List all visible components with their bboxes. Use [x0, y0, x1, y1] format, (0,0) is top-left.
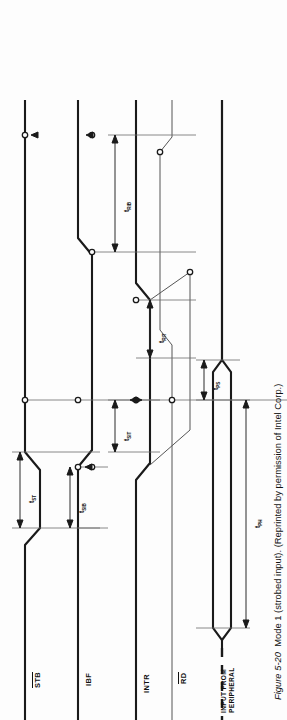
timing-sub-tSIB: SIB [82, 503, 87, 511]
timing-label-tSIT: tSIT [123, 432, 132, 441]
waveform-ibf [78, 100, 92, 720]
figure-number: Figure 5-20 [272, 652, 283, 700]
dim-tRIB [112, 135, 118, 252]
figure-caption: Figure 5-20 Mode 1 (strobed input). (Rep… [272, 384, 283, 700]
figure-title: Mode 1 (strobed input). [272, 550, 283, 647]
figure-credit: (Reprinted by permission of Intel Corp.) [272, 384, 283, 548]
timing-sub-tPH: PS [216, 382, 221, 388]
signal-label-line2: PERIPHERAL [228, 668, 236, 714]
signal-label-stb: STB [32, 672, 42, 688]
dim-tPH [201, 360, 207, 400]
timing-label-tPH: tPS [212, 382, 221, 390]
timing-sub-tPS: PH [258, 519, 263, 525]
signal-label-input-from-peripheral: INPUT FROM PERIPHERAL [220, 668, 236, 714]
timing-diagram [0, 0, 287, 720]
signal-label-rd: RD [178, 672, 188, 684]
dim-tPS [243, 400, 249, 628]
waveform-input-from-peripheral [213, 100, 231, 720]
waveform-rd-inverse [150, 272, 190, 465]
dim-tSIB [67, 467, 73, 528]
waveform-stb [25, 100, 40, 720]
dim-tST [17, 452, 23, 528]
signal-label-ibf: IBF [84, 673, 93, 686]
timing-sub-tST: ST [32, 495, 37, 501]
figure-panel: STB IBF INTR RD INPUT FROM PERIPHERAL tS… [0, 0, 287, 720]
junction-dots [22, 132, 192, 470]
dim-tRIT [147, 300, 153, 358]
timing-label-tPS: tPH [254, 519, 263, 528]
timing-label-tSIB: tSIB [78, 503, 87, 513]
waveform-rd [160, 100, 172, 720]
timing-sub-tRIB: RIB [127, 202, 132, 210]
signal-label-line1: INPUT FROM [220, 668, 228, 714]
dim-tSIT [112, 400, 118, 452]
timing-sub-tRIT: RIT [162, 333, 167, 340]
waveform-intr [136, 100, 150, 720]
timing-label-tST: tST [28, 495, 37, 503]
timing-sub-tSIT: SIT [127, 432, 132, 439]
timing-label-tRIB: tRIB [123, 202, 132, 212]
timing-label-tRIT: tRIT [158, 333, 167, 343]
signal-label-intr: INTR [142, 674, 151, 693]
